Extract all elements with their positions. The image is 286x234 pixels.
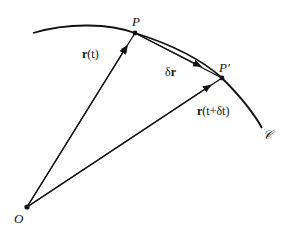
arrow-r-t [27,49,125,207]
label-delta-r: δr [165,65,177,79]
label-r-t-dt: r(t+δt) [197,104,229,118]
point-p-prime [220,76,225,81]
arrow-r-t-dt [27,87,208,207]
point-p [133,31,138,36]
point-o [24,204,29,209]
diagram-canvas: P P′ O r(t) δr r(t+δt) 𝒞 [0,0,286,234]
label-r-t: r(t) [82,47,99,61]
label-p: P [131,14,140,29]
arrow-delta-r [135,33,198,65]
label-o: O [14,211,24,226]
label-curve-c: 𝒞 [263,128,275,142]
label-p-prime: P′ [218,60,230,75]
curve-diagram: P P′ O r(t) δr r(t+δt) 𝒞 [0,0,286,234]
